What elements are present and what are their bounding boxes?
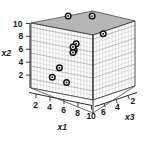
data-point bbox=[65, 12, 72, 19]
marker-core bbox=[72, 51, 74, 53]
x2-axis-label: x2 bbox=[1, 48, 12, 58]
x1-tick-4: 4 bbox=[47, 102, 52, 112]
x1-tick-2: 2 bbox=[33, 100, 38, 110]
x2-tick-6: 6 bbox=[19, 44, 24, 54]
x2-tick-2: 2 bbox=[19, 70, 24, 80]
data-point bbox=[100, 30, 107, 37]
x1-tick-10: 10 bbox=[86, 111, 96, 121]
marker-core bbox=[58, 67, 60, 69]
x2-tick-10: 10 bbox=[13, 19, 23, 29]
data-point bbox=[89, 13, 96, 20]
x1-tick-6: 6 bbox=[61, 105, 66, 115]
back-left-wall bbox=[31, 23, 93, 100]
data-point bbox=[63, 79, 70, 86]
x3-tick-6: 6 bbox=[101, 107, 106, 117]
x2-axis: 10 8 6 4 2 x2 bbox=[1, 19, 31, 89]
x3-tick-2: 2 bbox=[131, 96, 136, 106]
chart-canvas: 2 4 6 8 10 x1 6 4 2 x3 10 8 bbox=[0, 0, 154, 144]
marker-core bbox=[102, 33, 104, 35]
x3-tick-4: 4 bbox=[115, 102, 120, 112]
marker-core bbox=[67, 15, 69, 17]
data-point bbox=[70, 44, 77, 51]
data-point bbox=[49, 74, 56, 81]
x2-tick-8: 8 bbox=[19, 31, 24, 41]
marker-core bbox=[51, 76, 53, 78]
x1-tick-8: 8 bbox=[75, 108, 80, 118]
marker-core bbox=[75, 43, 77, 45]
scatter3d-plot: 2 4 6 8 10 x1 6 4 2 x3 10 8 bbox=[0, 0, 154, 144]
x1-axis-label: x1 bbox=[57, 122, 68, 132]
x2-tick-4: 4 bbox=[19, 57, 24, 67]
x3-axis-label: x3 bbox=[124, 112, 135, 122]
marker-core bbox=[66, 82, 68, 84]
marker-core bbox=[91, 15, 93, 17]
marker-core bbox=[72, 46, 74, 48]
data-point bbox=[56, 64, 63, 71]
